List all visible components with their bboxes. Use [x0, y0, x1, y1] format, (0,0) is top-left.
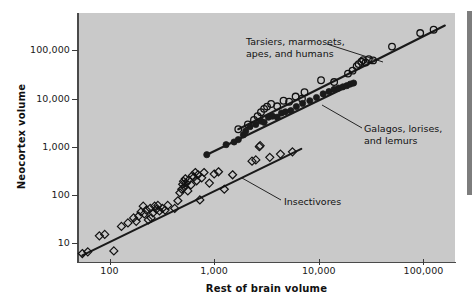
x-axis-line: [77, 262, 456, 263]
figure-container: 101001,00010,000100,0001001,00010,000100…: [0, 0, 476, 306]
annotation-line: apes, and humans: [246, 48, 345, 60]
y-tick-mark: [72, 147, 78, 148]
y-tick-label-wrap: 10,000: [0, 93, 70, 105]
annotation-line: Tarsiers, marmosets,: [246, 36, 345, 48]
y-tick-label: 10: [8, 237, 70, 248]
annotation-line: Insectivores: [284, 196, 341, 208]
y-tick-label-wrap: 100,000: [0, 44, 70, 56]
x-tick-label: 1,000: [179, 265, 249, 276]
y-tick-label-wrap: 10: [0, 237, 70, 249]
y-tick-mark: [72, 99, 78, 100]
x-tick-label: 100,000: [388, 265, 458, 276]
y-tick-mark: [72, 243, 78, 244]
y-axis-title: Neocortex volume: [16, 62, 27, 212]
insectivores-annotation: Insectivores: [284, 196, 341, 208]
x-tick-label: 10,000: [284, 265, 354, 276]
x-tick-label: 100: [75, 265, 145, 276]
y-tick-label-wrap: 100: [0, 189, 70, 201]
annotation-line: Galagos, lorises,: [364, 123, 442, 135]
x-axis-title: Rest of brain volume: [78, 283, 455, 294]
tarsiers-annotation: Tarsiers, marmosets,apes, and humans: [246, 36, 345, 60]
y-tick-mark: [72, 50, 78, 51]
y-tick-label-wrap: 1,000: [0, 141, 70, 153]
annotation-line: and lemurs: [364, 135, 442, 147]
page-edge-bar: [467, 11, 472, 195]
y-tick-mark: [72, 195, 78, 196]
galagos-annotation: Galagos, lorises,and lemurs: [364, 123, 442, 147]
y-tick-label: 100,000: [8, 44, 70, 55]
